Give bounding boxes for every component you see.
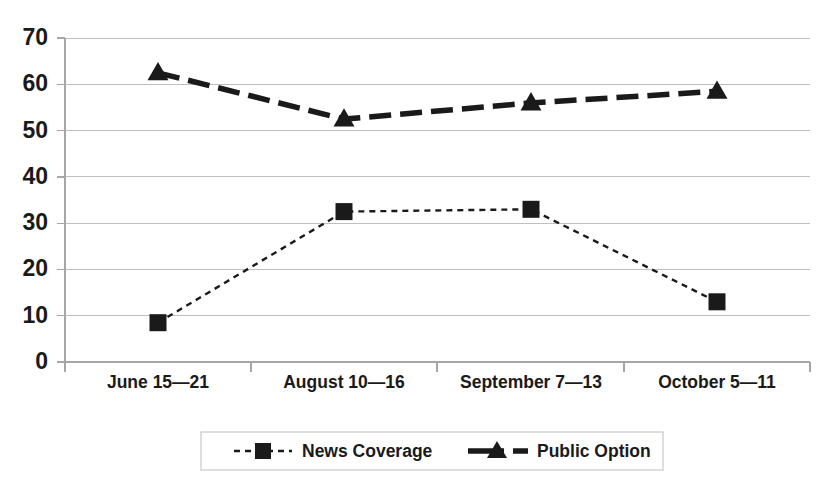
news-coverage-point-0: [150, 314, 167, 331]
public-option-point-0: [148, 62, 169, 80]
y-axis-label-0: 0: [35, 348, 48, 374]
y-axis-label-40: 40: [22, 163, 48, 189]
x-axis-label-october: October 5—11: [658, 372, 776, 392]
chart-canvas: 70 60 50 40 30 20 10 0 June 15—21 August…: [0, 0, 824, 499]
square-marker-icon: [255, 443, 271, 459]
news-coverage-point-3: [709, 293, 726, 310]
y-axis-label-50: 50: [22, 117, 48, 143]
y-axis-label-30: 30: [22, 209, 48, 235]
chart-legend: News Coverage Public Option: [201, 432, 663, 470]
y-axis-label-70: 70: [22, 24, 48, 50]
y-axis: [57, 38, 65, 362]
legend-item-news-coverage[interactable]: News Coverage: [234, 441, 433, 461]
legend-label-public-option: Public Option: [537, 441, 651, 461]
news-coverage-point-2: [523, 201, 540, 218]
x-axis-ticks: [65, 362, 810, 372]
news-coverage-line: [158, 209, 717, 322]
y-gridlines: [65, 38, 810, 362]
y-axis-label-10: 10: [22, 302, 48, 328]
x-tick-labels: June 15—21 August 10—16 September 7—13 O…: [107, 372, 776, 392]
series-news-coverage: [150, 201, 726, 331]
y-axis-label-20: 20: [22, 255, 48, 281]
series-public-option: [148, 62, 728, 127]
line-chart: 70 60 50 40 30 20 10 0 June 15—21 August…: [0, 0, 824, 499]
public-option-line: [158, 73, 717, 119]
x-axis-label-june: June 15—21: [107, 372, 209, 392]
news-coverage-point-1: [336, 203, 353, 220]
x-axis-label-september: September 7—13: [460, 372, 602, 392]
legend-label-news-coverage: News Coverage: [302, 441, 433, 461]
y-axis-label-60: 60: [22, 70, 48, 96]
x-axis-label-august: August 10—16: [283, 372, 405, 392]
y-tick-labels: 70 60 50 40 30 20 10 0: [22, 24, 48, 374]
